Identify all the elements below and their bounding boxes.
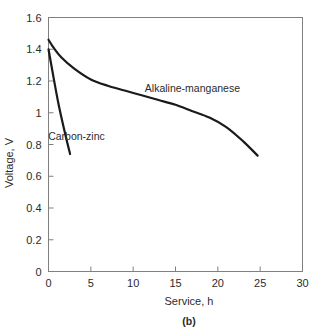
y-axis-title: Voltage, V [3,137,15,188]
y-tick-label: 1 [35,107,41,119]
y-tick-label: 1.6 [26,12,41,24]
y-tick-label: 0.6 [26,170,41,182]
y-tick-label: 1.4 [26,43,41,55]
x-tick-label: 0 [45,277,51,289]
panel-label: (b) [182,315,195,327]
y-tick-label: 0.8 [26,139,41,151]
x-axis-tick-labels: 051015202530 [45,277,308,289]
series-label: Carbon-zinc [48,130,105,142]
y-tick-label: 0.2 [26,234,41,246]
voltage-vs-service-chart: 00.20.40.60.811.21.41.6 051015202530 Alk… [0,0,325,335]
y-tick-label: 1.2 [26,75,41,87]
x-tick-label: 20 [212,277,224,289]
plot-frame [49,18,303,272]
y-axis-tick-labels: 00.20.40.60.811.21.41.6 [26,12,41,278]
x-tick-label: 15 [169,277,181,289]
x-axis-title: Service, h [165,295,214,307]
figure-container: 00.20.40.60.811.21.41.6 051015202530 Alk… [0,0,325,335]
x-tick-label: 30 [296,277,308,289]
x-tick-label: 25 [254,277,266,289]
y-tick-label: 0.4 [26,202,41,214]
x-tick-label: 10 [127,277,139,289]
series-annotations: Alkaline-manganeseCarbon-zinc [48,82,240,142]
series-label: Alkaline-manganese [145,82,240,94]
y-tick-label: 0 [35,266,41,278]
x-tick-label: 5 [88,277,94,289]
x-axis-ticks [49,267,303,272]
